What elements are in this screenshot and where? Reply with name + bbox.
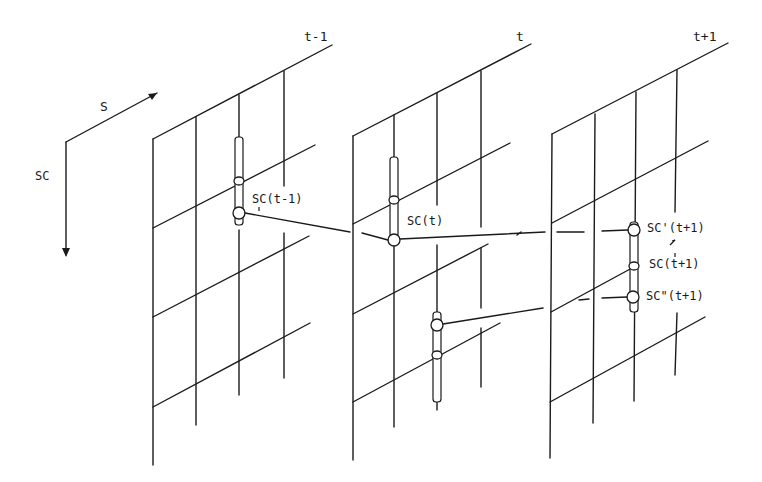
node-label-sc-double-prime-t-plus-1: SC"(t+1) — [646, 290, 704, 302]
node-sc-t-plus-1 — [629, 262, 639, 270]
frame-t-minus-1 — [153, 45, 332, 465]
frame-label-t-minus-1: t-1 — [304, 30, 327, 43]
node-sc-t-lower — [431, 319, 443, 331]
s-axis — [66, 93, 157, 142]
node-label-sc-t-plus-1: SC(t+1) — [649, 258, 700, 270]
frame-t — [353, 44, 531, 460]
sc-axis-label: SC — [35, 170, 49, 182]
link-t-lower-to-t-plus-1-double-prime — [443, 308, 543, 324]
node-sc-double-prime-t-plus-1 — [627, 291, 639, 303]
s-axis-label: S — [100, 100, 108, 113]
node-label-sc-prime-t-plus-1: SC'(t+1) — [647, 222, 705, 234]
node-label-sc-t-minus-1: SC(t-1) — [252, 193, 303, 205]
node-sc-t-minus-1 — [233, 207, 245, 219]
diagram-canvas: S SC t-1 t t+1 SC(t-1) SC(t) SC'(t+1) SC… — [0, 0, 762, 482]
node-sc-prime-t-plus-1 — [628, 224, 640, 236]
link-t-minus-1-to-t — [245, 213, 350, 232]
frame-label-t-plus-1: t+1 — [693, 30, 716, 43]
node-sc-t — [388, 234, 400, 246]
diagram-drawing — [0, 0, 762, 482]
axes — [62, 93, 157, 257]
frame-t-plus-1 — [550, 43, 728, 458]
link-t-to-t-plus-1-prime — [400, 232, 545, 239]
node-label-sc-t: SC(t) — [407, 215, 443, 227]
frame-label-t: t — [516, 30, 524, 43]
sc-axis-arrowhead-icon — [62, 248, 70, 257]
